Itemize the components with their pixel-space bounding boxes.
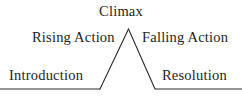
label-resolution: Resolution <box>162 68 227 83</box>
label-rising-action: Rising Action <box>32 30 115 45</box>
label-climax: Climax <box>0 4 242 19</box>
label-introduction: Introduction <box>9 68 83 83</box>
plot-structure-diagram: Climax Rising Action Falling Action Intr… <box>0 0 242 96</box>
label-falling-action: Falling Action <box>142 30 228 45</box>
